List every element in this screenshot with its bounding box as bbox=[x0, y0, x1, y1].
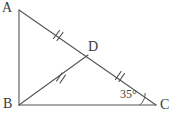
vertex-label-d: D bbox=[88, 40, 98, 54]
tick-mark-DC bbox=[116, 72, 125, 82]
figure-canvas bbox=[0, 0, 173, 119]
vertex-label-c: C bbox=[160, 98, 169, 112]
angle-measure-label-c: 35° bbox=[120, 88, 137, 100]
vertex-label-a: A bbox=[2, 1, 12, 15]
vertex-label-b: B bbox=[3, 97, 12, 111]
geometry-figure: A B C D 35° bbox=[0, 0, 173, 119]
segment-BD-cevian bbox=[19, 55, 88, 105]
tick-mark-BD bbox=[57, 73, 66, 83]
